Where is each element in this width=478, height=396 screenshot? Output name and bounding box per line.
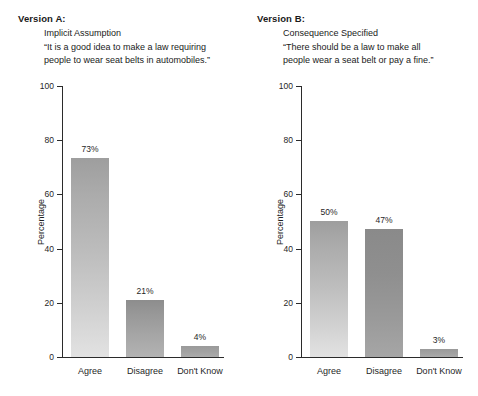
version-a-quote-line-2: people to wear seat belts in automobiles… xyxy=(44,54,236,68)
y-tick-mark-0-a xyxy=(57,357,62,358)
y-tick-label-40-a: 40 xyxy=(45,244,54,253)
version-a-quote-line-1: “It is a good idea to make a law requiri… xyxy=(44,41,236,55)
y-axis-line-a xyxy=(62,86,63,358)
bar-value-disagree-a: 21% xyxy=(136,287,153,296)
bar-agree-a: 73% xyxy=(71,158,109,357)
y-tick-mark-80-a xyxy=(57,140,62,141)
y-axis-line-b xyxy=(301,86,302,358)
y-tick-mark-20-b xyxy=(296,303,301,304)
y-tick-label-100-b: 100 xyxy=(279,82,293,91)
bar-disagree-a: 21% xyxy=(126,300,164,357)
y-tick-label-20-b: 20 xyxy=(284,299,293,308)
panel-b-header: Version B: Consequence Specified “There … xyxy=(257,12,475,68)
version-a-subtitle: Implicit Assumption xyxy=(44,27,236,41)
y-tick-mark-60-b xyxy=(296,194,301,195)
bar-disagree-b: 47% xyxy=(365,229,403,357)
y-tick-label-0-a: 0 xyxy=(49,353,54,362)
y-tick-mark-20-a xyxy=(57,303,62,304)
x-axis-line-a xyxy=(62,357,224,358)
x-axis-label-disagree-b: Disagree xyxy=(366,366,402,376)
y-tick-label-80-a: 80 xyxy=(45,136,54,145)
bar-fill-agree-b xyxy=(310,221,348,357)
y-tick-label-40-b: 40 xyxy=(284,244,293,253)
y-tick-label-60-a: 60 xyxy=(45,190,54,199)
y-tick-label-60-b: 60 xyxy=(284,190,293,199)
bar-value-dontknow-a: 4% xyxy=(194,333,206,342)
y-tick-mark-40-b xyxy=(296,249,301,250)
bar-fill-disagree-a xyxy=(126,300,164,357)
y-tick-label-80-b: 80 xyxy=(284,136,293,145)
y-tick-label-100-a: 100 xyxy=(40,82,54,91)
version-b-quote-line-2: people wear a seat belt or pay a fine.” xyxy=(283,54,475,68)
version-b-quote-line-1: “There should be a law to make all xyxy=(283,41,475,55)
bar-agree-b: 50% xyxy=(310,221,348,357)
bar-dontknow-a: 4% xyxy=(181,346,219,357)
y-axis-title-a: Percentage xyxy=(36,199,46,245)
bar-value-disagree-b: 47% xyxy=(375,216,392,225)
y-tick-mark-60-a xyxy=(57,194,62,195)
y-tick-mark-0-b xyxy=(296,357,301,358)
y-tick-mark-40-a xyxy=(57,249,62,250)
y-tick-label-0-b: 0 xyxy=(288,353,293,362)
y-tick-mark-100-a xyxy=(57,86,62,87)
x-axis-label-agree-b: Agree xyxy=(317,366,341,376)
bar-dontknow-b: 3% xyxy=(420,349,458,357)
panel-a-header: Version A: Implicit Assumption “It is a … xyxy=(18,12,236,68)
y-axis-title-b: Percentage xyxy=(275,199,285,245)
x-axis-label-dontknow-b: Don't Know xyxy=(416,366,462,376)
x-axis-label-dontknow-a: Don't Know xyxy=(177,366,223,376)
y-tick-mark-100-b xyxy=(296,86,301,87)
x-axis-label-disagree-a: Disagree xyxy=(127,366,163,376)
bar-fill-disagree-b xyxy=(365,229,403,357)
bar-value-agree-a: 73% xyxy=(81,145,98,154)
version-b-title: Version B: xyxy=(257,12,475,25)
plot-area-version-b: Percentage 0 20 40 60 80 100 50% xyxy=(301,86,463,358)
y-tick-label-20-a: 20 xyxy=(45,299,54,308)
x-axis-line-b xyxy=(301,357,463,358)
bar-fill-agree-a xyxy=(71,158,109,357)
y-tick-mark-80-b xyxy=(296,140,301,141)
plot-area-version-a: Percentage 0 20 40 60 80 100 73% xyxy=(62,86,224,358)
version-b-subtitle: Consequence Specified xyxy=(283,27,475,41)
chart-panel-version-a: Version A: Implicit Assumption “It is a … xyxy=(0,0,239,396)
version-a-title: Version A: xyxy=(18,12,236,25)
bar-fill-dontknow-a xyxy=(181,346,219,357)
bar-fill-dontknow-b xyxy=(420,349,458,357)
bar-value-agree-b: 50% xyxy=(320,208,337,217)
chart-panel-version-b: Version B: Consequence Specified “There … xyxy=(239,0,478,396)
x-axis-label-agree-a: Agree xyxy=(78,366,102,376)
bar-value-dontknow-b: 3% xyxy=(433,336,445,345)
